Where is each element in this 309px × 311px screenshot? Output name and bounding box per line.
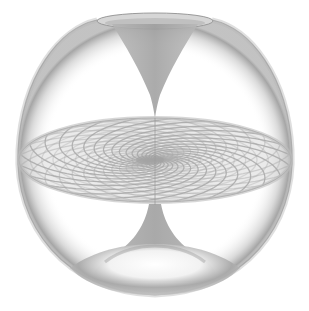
sphere-spiral-render: [0, 0, 309, 311]
